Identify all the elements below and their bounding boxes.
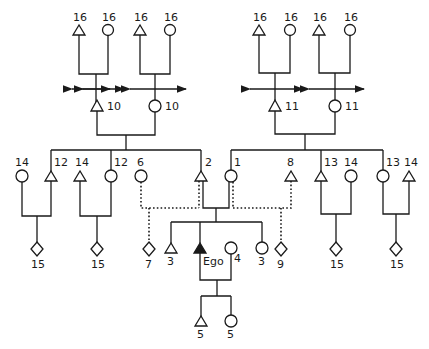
father: 2 xyxy=(195,156,212,181)
node-label: 16 xyxy=(253,11,267,24)
diamond-icon xyxy=(390,242,402,256)
node-label: 16 xyxy=(73,11,87,24)
grandparents-maternal: 11 11 xyxy=(269,100,359,150)
male-triangle-icon xyxy=(195,171,207,181)
node-label: 10 xyxy=(107,100,121,113)
diamond-icon xyxy=(143,242,155,256)
male-triangle-icon xyxy=(313,25,325,35)
node-label: 3 xyxy=(167,255,174,268)
maternal-aunt-uncle-2: 13 14 15 xyxy=(377,156,418,271)
node-label: 1 xyxy=(234,156,241,169)
female-circle-icon xyxy=(103,25,114,36)
node-label: 3 xyxy=(258,255,265,268)
mother: 1 xyxy=(225,156,241,182)
node-label: 11 xyxy=(345,100,359,113)
male-triangle-icon xyxy=(45,171,57,181)
great-grandparents-left-1: 16 16 xyxy=(73,11,116,106)
ego-filled-triangle-icon xyxy=(194,243,206,253)
grandparents-paternal: 10 10 xyxy=(91,100,179,150)
node-label: 16 xyxy=(284,11,298,24)
female-circle-icon xyxy=(16,170,28,182)
male-triangle-icon xyxy=(403,171,415,181)
female-circle-icon xyxy=(329,100,341,112)
kinship-diagram: 16 16 16 16 16 16 16 16 10 10 xyxy=(0,0,429,349)
male-triangle-icon xyxy=(315,171,327,181)
node-label: 14 xyxy=(75,156,89,169)
node-label: 13 xyxy=(386,156,400,169)
node-label: 13 xyxy=(324,156,338,169)
great-grandparents-right-2: 16 16 xyxy=(313,11,358,100)
female-circle-icon xyxy=(105,170,117,182)
diamond-icon xyxy=(330,242,342,256)
male-triangle-icon xyxy=(91,100,103,111)
node-label: 14 xyxy=(15,156,29,169)
great-grandparents-left-2: 16 16 xyxy=(134,11,178,100)
female-circle-icon xyxy=(345,170,357,182)
node-label: 16 xyxy=(313,11,327,24)
node-label: 12 xyxy=(54,156,68,169)
node-label: 5 xyxy=(227,328,234,341)
node-label: 10 xyxy=(165,100,179,113)
female-circle-icon xyxy=(225,315,237,327)
female-circle-icon xyxy=(285,25,296,36)
great-grandparents-right-1: 16 16 xyxy=(253,11,298,106)
male-triangle-icon xyxy=(74,171,86,181)
node-label: 16 xyxy=(134,11,148,24)
father-other-union: 6 7 xyxy=(135,156,199,271)
node-label: 16 xyxy=(164,11,178,24)
node-label: 16 xyxy=(344,11,358,24)
daughter: 5 xyxy=(225,315,237,341)
wife: 4 xyxy=(225,242,241,265)
diamond-icon xyxy=(31,242,43,256)
node-label: 9 xyxy=(277,258,284,271)
node-label: 6 xyxy=(137,156,144,169)
paternal-aunt-uncle-1: 14 12 15 xyxy=(15,156,68,271)
male-triangle-icon xyxy=(73,25,85,35)
brother: 3 xyxy=(165,243,177,268)
node-label: 15 xyxy=(31,258,45,271)
node-label: 15 xyxy=(330,258,344,271)
node-label: 8 xyxy=(287,156,294,169)
ego: Ego xyxy=(194,243,224,268)
node-label: 11 xyxy=(285,100,299,113)
female-circle-icon xyxy=(149,100,161,112)
female-circle-icon xyxy=(135,170,147,182)
node-label: 4 xyxy=(234,252,241,265)
maternal-aunt-uncle-1: 13 14 15 xyxy=(315,156,358,271)
male-triangle-icon xyxy=(285,171,297,181)
ego-label: Ego xyxy=(203,255,224,268)
son: 5 xyxy=(195,316,207,341)
male-triangle-icon xyxy=(253,25,265,35)
male-triangle-icon xyxy=(269,100,281,111)
female-circle-icon xyxy=(377,170,389,182)
male-triangle-icon xyxy=(134,25,146,35)
female-circle-icon xyxy=(165,25,176,36)
node-label: 15 xyxy=(91,258,105,271)
node-label: 14 xyxy=(344,156,358,169)
female-circle-icon xyxy=(345,25,356,36)
diamond-icon xyxy=(91,242,103,256)
node-label: 16 xyxy=(102,11,116,24)
paternal-aunt-uncle-2: 14 12 15 xyxy=(74,156,128,271)
node-label: 12 xyxy=(114,156,128,169)
node-label: 15 xyxy=(390,258,404,271)
female-circle-icon xyxy=(256,242,268,254)
node-label: 2 xyxy=(205,156,212,169)
node-label: 5 xyxy=(197,328,204,341)
sister: 3 xyxy=(256,242,268,268)
node-label: 7 xyxy=(145,258,152,271)
diamond-icon xyxy=(275,242,287,256)
male-triangle-icon xyxy=(195,316,207,326)
male-triangle-icon xyxy=(165,243,177,253)
node-label: 14 xyxy=(404,156,418,169)
female-circle-icon xyxy=(225,170,237,182)
